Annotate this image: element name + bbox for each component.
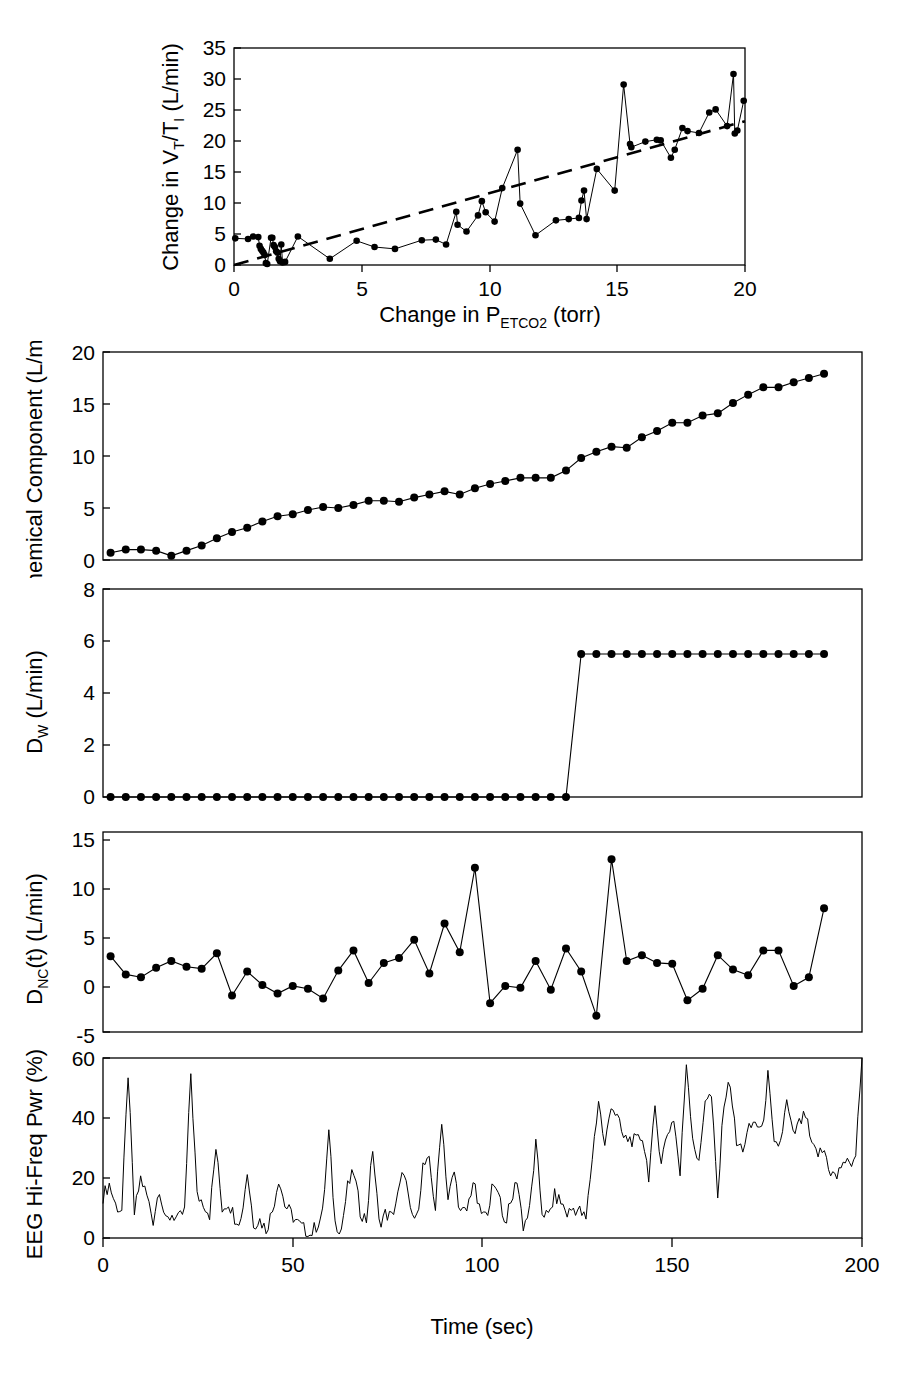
panel-c-ytick-2: 2 xyxy=(83,733,95,756)
panel-e-xticks: 0 50 100 150 200 xyxy=(97,1253,879,1276)
panel-b-markers xyxy=(107,370,828,560)
panel-d-series xyxy=(111,859,824,1015)
panel-a-trendline xyxy=(234,121,745,265)
panel-a-series xyxy=(235,74,743,264)
panel-d-ytick-0: 0 xyxy=(83,975,95,998)
panel-c-ytick-8: 8 xyxy=(83,582,95,601)
xtick-150: 150 xyxy=(654,1253,689,1276)
panel-b-ytick-20: 20 xyxy=(72,341,95,364)
panel-e-xtick-marks xyxy=(103,1238,862,1247)
panel-b-frame xyxy=(103,352,862,560)
panel-d-ytick-15: 15 xyxy=(72,828,95,851)
panel-b-ytick-marks xyxy=(103,352,110,560)
svg-text:DNC(t) (L/min): DNC(t) (L/min) xyxy=(22,873,51,1004)
panel-d-ytick-5: 5 xyxy=(83,926,95,949)
panel-b-ytick-0: 0 xyxy=(83,549,95,572)
panel-a-xtick-0: 0 xyxy=(228,277,240,300)
panel-a-xtick-marks xyxy=(234,265,745,272)
svg-text:DW (L/min): DW (L/min) xyxy=(22,650,51,754)
panel-e-series xyxy=(103,1058,862,1237)
panel-a-ylabel-tail: (L/min) xyxy=(158,43,183,118)
panel-e-ytick-20: 20 xyxy=(72,1166,95,1189)
panel-a-ytick-15: 15 xyxy=(203,160,226,183)
panel-a-chart: Change in VT/TI (L/min) 35 30 25 20 15 1… xyxy=(0,0,898,330)
panel-a-xtick-10: 10 xyxy=(478,277,501,300)
panel-d-ytick-marks xyxy=(103,840,110,1032)
panel-c-ylabel-main: D xyxy=(22,738,47,754)
xtick-100: 100 xyxy=(464,1253,499,1276)
panel-a-xticks: 0 5 10 15 20 xyxy=(228,277,757,300)
shared-xlabel: Time (sec) xyxy=(430,1314,533,1339)
panel-e-ytick-60: 60 xyxy=(72,1047,95,1070)
panel-c-ylabel: DW (L/min) xyxy=(22,650,51,754)
panel-b-ylabel: Chemical Component (L/min) xyxy=(22,338,47,578)
panel-c-yticks: 8 6 4 2 0 xyxy=(83,582,95,808)
panel-e-frame xyxy=(103,1058,862,1238)
panel-c-ytick-marks xyxy=(103,589,110,797)
panel-e-yticks: 60 40 20 0 xyxy=(72,1047,95,1249)
panel-a-xlabel-sub: ETCO2 xyxy=(500,315,547,330)
panel-c-markers xyxy=(107,650,828,801)
panel-a-ytick-0: 0 xyxy=(214,253,226,276)
panel-a-ytick-20: 20 xyxy=(203,129,226,152)
panel-a-ylabel-main: Change in V xyxy=(158,149,183,270)
panel-d-chart: DNC(t) (L/min) 15 10 5 0 -5 xyxy=(0,826,898,1058)
panel-e-chart: EEG Hi-Freq Pwr (%) 60 40 20 0 0 50 100 xyxy=(0,1044,898,1374)
svg-text:EEG Hi-Freq Pwr (%): EEG Hi-Freq Pwr (%) xyxy=(22,1049,47,1259)
panel-a-xlabel-main: Change in P xyxy=(379,302,500,327)
panel-b-ytick-5: 5 xyxy=(83,497,95,520)
panel-e-ytick-marks xyxy=(103,1058,110,1238)
panel-c-ytick-4: 4 xyxy=(83,681,95,704)
xtick-200: 200 xyxy=(844,1253,879,1276)
panel-c-ytick-6: 6 xyxy=(83,629,95,652)
panel-d-ylabel: DNC(t) (L/min) xyxy=(22,873,51,1004)
panel-a-ytick-5: 5 xyxy=(214,222,226,245)
panel-c-series xyxy=(111,654,824,797)
figure-multipanel: Change in VT/TI (L/min) 35 30 25 20 15 1… xyxy=(0,0,898,1374)
panel-c-ylabel-tail: (L/min) xyxy=(22,650,47,725)
panel-d-ylabel-main: D xyxy=(22,989,47,1005)
panel-b-chart: Chemical Component (L/min) 20 15 10 5 0 xyxy=(0,338,898,578)
panel-d-markers xyxy=(107,855,828,1019)
panel-e-ylabel: EEG Hi-Freq Pwr (%) xyxy=(22,1049,47,1259)
svg-text:Chemical Component (L/min): Chemical Component (L/min) xyxy=(22,338,47,578)
xtick-50: 50 xyxy=(281,1253,304,1276)
panel-a-xtick-20: 20 xyxy=(733,277,756,300)
panel-a-ytick-35: 35 xyxy=(203,36,226,59)
panel-a-xtick-5: 5 xyxy=(356,277,368,300)
panel-b-yticks: 20 15 10 5 0 xyxy=(72,341,95,572)
panel-a-ytick-10: 10 xyxy=(203,191,226,214)
panel-b-ytick-10: 10 xyxy=(72,445,95,468)
panel-a-ytick-25: 25 xyxy=(203,98,226,121)
panel-e-ytick-40: 40 xyxy=(72,1106,95,1129)
panel-a-markers xyxy=(232,71,747,268)
panel-a-ylabel: Change in VT/TI (L/min) xyxy=(158,43,187,271)
panel-a-ylabel-mid: /T xyxy=(158,122,183,142)
svg-text:Change in VT/TI (L/min): Change in VT/TI (L/min) xyxy=(158,43,187,271)
panel-a-ytick-marks xyxy=(234,48,241,265)
panel-a-xtick-15: 15 xyxy=(605,277,628,300)
panel-d-ytick-10: 10 xyxy=(72,877,95,900)
panel-b-series xyxy=(111,374,824,556)
panel-c-ytick-0: 0 xyxy=(83,785,95,808)
panel-e-ytick-0: 0 xyxy=(83,1226,95,1249)
panel-d-yticks: 15 10 5 0 -5 xyxy=(72,828,95,1047)
panel-a-xlabel-tail: (torr) xyxy=(547,302,601,327)
panel-d-ylabel-sub: NC xyxy=(35,969,51,989)
panel-a-ytick-30: 30 xyxy=(203,67,226,90)
panel-c-frame xyxy=(103,589,862,797)
xtick-0: 0 xyxy=(97,1253,109,1276)
panel-b-ytick-15: 15 xyxy=(72,393,95,416)
panel-d-ylabel-tail: (t) (L/min) xyxy=(22,873,47,968)
panel-c-chart: DW (L/min) 8 6 4 2 0 xyxy=(0,582,898,827)
panel-a-yticks: 35 30 25 20 15 10 5 0 xyxy=(203,36,226,276)
panel-c-ylabel-sub: W xyxy=(35,724,51,738)
panel-a-xlabel: Change in PETCO2 (torr) xyxy=(379,302,601,330)
